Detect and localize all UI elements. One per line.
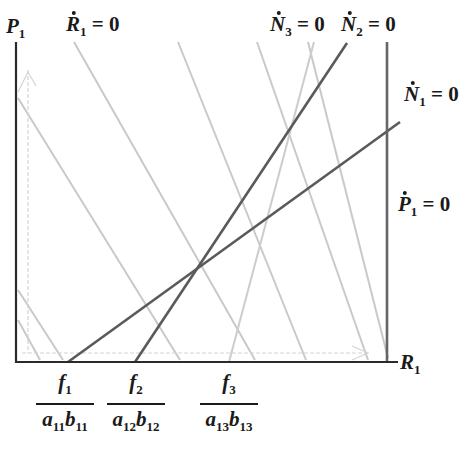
r1-isocline-label: R1 = 0 <box>66 14 119 38</box>
arrow-heads <box>18 72 368 360</box>
trajectory-dashed <box>22 70 365 353</box>
x-axis-label: R1 <box>400 352 421 376</box>
n2-isocline-label: N2 = 0 <box>341 14 396 38</box>
x-tick-f2: f2 a12b12 <box>107 370 165 439</box>
n1-isocline-label: N1 = 0 <box>404 84 459 108</box>
x-tick-f3: f3 a13b13 <box>200 370 258 439</box>
p1-isocline-label: P1 = 0 <box>398 194 450 218</box>
y-axis-label: P1 <box>6 16 25 40</box>
n1-isocline-line <box>68 122 400 362</box>
n3-isocline-label: N3 = 0 <box>270 14 325 38</box>
resource-isocline-lines <box>18 42 388 360</box>
x-tick-f1: f1 a11b11 <box>36 370 94 439</box>
